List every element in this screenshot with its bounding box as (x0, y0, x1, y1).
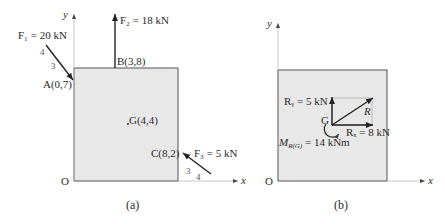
origin-label-b: O (265, 175, 273, 187)
force-f3-label: F₃ = 5 kN (194, 147, 237, 159)
point-b-label: B(3,8) (117, 55, 146, 68)
ry-label: Rᵧ = 5 kN (284, 95, 328, 108)
caption-b: (b) (334, 198, 348, 212)
caption-a: (a) (126, 198, 139, 212)
force-f2-label: F₂ = 18 kN (120, 14, 169, 26)
resultant-label: R (363, 105, 371, 117)
rx-label: Rₓ = 8 kN (346, 126, 390, 138)
force-f1-label: F₁ = 20 kN (18, 29, 67, 41)
f1-slope-4: 4 (40, 47, 45, 57)
origin-label-a: O (61, 175, 69, 187)
point-c-label: C(8,2) (151, 147, 180, 160)
y-axis-label-b: y (266, 17, 272, 29)
centroid-label-a: G(4,4) (129, 114, 158, 127)
y-axis-label-a: y (62, 8, 68, 20)
x-axis-label-a: x (240, 174, 246, 186)
panel-b: y x O Rᵧ = 5 kN Rₓ = 8 kN R G MR(G) = 14… (265, 17, 433, 212)
panel-a: y x O F₁ = 20 kN 4 3 A(0,7) F₂ = 18 kN B… (18, 8, 246, 212)
f3-slope-3: 3 (186, 166, 191, 176)
x-axis-label-b: x (427, 174, 433, 186)
f1-slope-3: 3 (51, 61, 56, 71)
plate-a (74, 68, 178, 181)
force-diagram: y x O F₁ = 20 kN 4 3 A(0,7) F₂ = 18 kN B… (0, 0, 445, 224)
centroid-label-b: G (321, 114, 329, 126)
point-a-label: A(0,7) (43, 78, 72, 91)
f3-slope-4: 4 (196, 172, 201, 182)
